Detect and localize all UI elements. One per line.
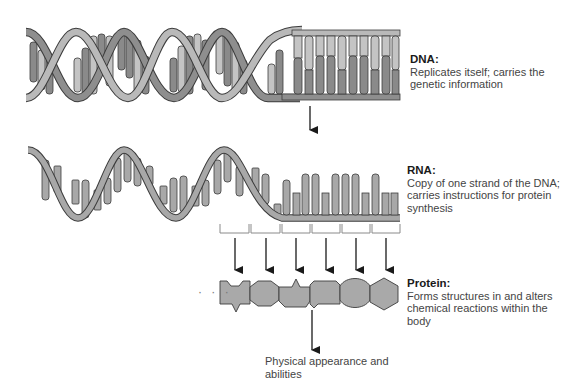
protein-title: Protein: xyxy=(407,277,567,290)
protein-description: Forms structures in and alters chemical … xyxy=(407,290,567,328)
codon-brackets xyxy=(220,224,400,233)
diagram-canvas: · · · DNA: Replicates itself; carries th… xyxy=(0,0,573,392)
amino-acid-6 xyxy=(370,278,398,310)
protein-label: Protein: Forms structures in and alters … xyxy=(407,277,567,327)
amino-acid-3 xyxy=(279,279,310,307)
amino-acid-4 xyxy=(310,281,340,308)
protein-chain xyxy=(220,278,398,312)
dna-title: DNA: xyxy=(410,53,570,66)
amino-acid-5 xyxy=(340,279,370,308)
phenotype-label: Physical appearance and abilities xyxy=(265,355,395,380)
translation-arrows xyxy=(235,238,386,270)
rna-strand xyxy=(28,150,400,218)
dna-description: Replicates itself; carries the genetic i… xyxy=(410,66,570,91)
rna-title: RNA: xyxy=(407,164,567,177)
protein-continuation-ellipsis: · · · xyxy=(198,285,232,299)
dna-label: DNA: Replicates itself; carries the gene… xyxy=(410,53,570,91)
dna-double-helix xyxy=(26,30,400,100)
rna-description: Copy of one strand of the DNA; carries i… xyxy=(407,177,567,215)
amino-acid-2 xyxy=(250,281,279,306)
rna-label: RNA: Copy of one strand of the DNA; carr… xyxy=(407,164,567,214)
